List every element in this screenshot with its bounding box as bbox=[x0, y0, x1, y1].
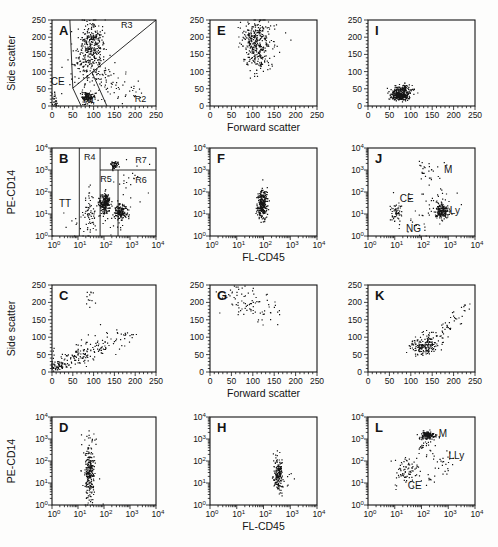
x-axis-label: Forward scatter bbox=[227, 387, 300, 399]
scatter-point-marks bbox=[272, 450, 295, 496]
tick-label: 103 bbox=[126, 239, 139, 251]
tick-label: 102 bbox=[193, 455, 206, 467]
plot-frame bbox=[368, 148, 475, 236]
panel-H: 100101102103104100101102103104FL-CD45H bbox=[193, 411, 326, 533]
tick-label: 102 bbox=[351, 455, 364, 467]
tick-label: 100 bbox=[35, 230, 48, 242]
y-axis-ticks bbox=[48, 20, 52, 106]
tick-label: 150 bbox=[32, 49, 46, 59]
tick-label: 101 bbox=[35, 477, 48, 489]
tick-label: 102 bbox=[100, 239, 113, 251]
tick-label: 250 bbox=[190, 15, 204, 25]
panel-J: 100101102103104100101102103104MCELyNGJ bbox=[351, 142, 484, 251]
tick-label: 103 bbox=[193, 433, 206, 445]
panel-C: 050100150200250050100150200250Side scatt… bbox=[5, 280, 163, 386]
tick-label: 102 bbox=[259, 239, 272, 251]
tick-label: 50 bbox=[37, 350, 47, 360]
y-axis-ticks bbox=[206, 417, 210, 505]
tick-label: 104 bbox=[351, 142, 364, 154]
axis-tick-labels: 100101102103104100101102103104 bbox=[351, 142, 484, 251]
tick-label: 102 bbox=[35, 455, 48, 467]
y-axis-ticks bbox=[206, 148, 210, 236]
tick-label: 200 bbox=[128, 110, 142, 120]
tick-label: 100 bbox=[348, 67, 362, 77]
tick-label: 0 bbox=[366, 110, 371, 120]
tick-label: 103 bbox=[35, 164, 48, 176]
tick-label: 250 bbox=[149, 376, 163, 386]
flow-cytometry-figure: 050100150200250050100150200250Side scatt… bbox=[0, 0, 498, 547]
figure-page: 050100150200250050100150200250Side scatt… bbox=[0, 0, 498, 547]
y-axis-ticks bbox=[48, 417, 52, 505]
tick-label: 100 bbox=[404, 376, 418, 386]
tick-label: 101 bbox=[232, 508, 245, 520]
tick-label: 0 bbox=[50, 110, 55, 120]
y-axis-ticks bbox=[364, 417, 368, 505]
tick-label: 0 bbox=[199, 101, 204, 111]
tick-label: 250 bbox=[310, 376, 324, 386]
tick-label: 100 bbox=[206, 508, 219, 520]
axis-tick-labels: 100101102103104100101102103104 bbox=[35, 411, 165, 520]
tick-label: 200 bbox=[32, 297, 46, 307]
tick-label: 101 bbox=[351, 477, 364, 489]
y-axis-label: Side scatter bbox=[5, 35, 17, 91]
panel-I: 050100150200250050100150200250I bbox=[348, 15, 483, 120]
panel-letter-H: H bbox=[217, 420, 226, 435]
tick-label: 0 bbox=[41, 367, 46, 377]
tick-label: 50 bbox=[353, 84, 363, 94]
panel-E: 050100150200250050100150200250Forward sc… bbox=[190, 15, 325, 133]
tick-label: 101 bbox=[232, 239, 245, 251]
tick-label: 104 bbox=[313, 508, 326, 520]
tick-label: 101 bbox=[74, 508, 87, 520]
x-axis-label: FL-CD45 bbox=[242, 251, 285, 263]
tick-label: 250 bbox=[32, 15, 46, 25]
tick-label: 102 bbox=[417, 508, 430, 520]
panel-D: 100101102103104100101102103104PE-CD14D bbox=[5, 411, 165, 520]
panel-letter-G: G bbox=[217, 288, 227, 303]
tick-label: 101 bbox=[351, 208, 364, 220]
y-axis-label: PE-CD14 bbox=[5, 170, 17, 215]
tick-label: 0 bbox=[208, 376, 213, 386]
tick-label: 100 bbox=[87, 376, 101, 386]
scatter-points bbox=[387, 83, 419, 103]
tick-label: 103 bbox=[286, 239, 299, 251]
gate-label-CE: CE bbox=[400, 193, 414, 204]
tick-label: 103 bbox=[286, 508, 299, 520]
gate-label-Ly: Ly bbox=[450, 205, 460, 216]
x-axis-label: Forward scatter bbox=[227, 121, 300, 133]
tick-label: 50 bbox=[195, 350, 205, 360]
tick-label: 200 bbox=[447, 376, 461, 386]
panel-letter-E: E bbox=[217, 23, 226, 38]
tick-label: 50 bbox=[37, 84, 47, 94]
tick-label: 100 bbox=[404, 110, 418, 120]
y-axis-label: Side scatter bbox=[5, 300, 17, 356]
gate-label-R1: R1 bbox=[83, 95, 95, 105]
gate-label-R2: R2 bbox=[135, 94, 147, 104]
y-axis-ticks bbox=[48, 285, 52, 372]
tick-label: 104 bbox=[351, 411, 364, 423]
tick-label: 150 bbox=[190, 49, 204, 59]
panel-letter-J: J bbox=[375, 151, 382, 166]
tick-label: 0 bbox=[357, 367, 362, 377]
tick-label: 200 bbox=[348, 32, 362, 42]
tick-label: 101 bbox=[193, 208, 206, 220]
gate-label-LLy: LLy bbox=[448, 450, 464, 461]
y-axis-ticks bbox=[206, 285, 210, 372]
tick-label: 104 bbox=[313, 239, 326, 251]
tick-label: 100 bbox=[351, 230, 364, 242]
y-axis-ticks bbox=[48, 148, 52, 236]
tick-label: 0 bbox=[208, 110, 213, 120]
tick-label: 100 bbox=[190, 332, 204, 342]
scatter-point-marks bbox=[406, 303, 471, 356]
y-axis-ticks bbox=[206, 20, 210, 106]
panel-letter-B: B bbox=[59, 151, 68, 166]
tick-label: 200 bbox=[348, 297, 362, 307]
tick-label: 150 bbox=[267, 376, 281, 386]
tick-label: 101 bbox=[35, 208, 48, 220]
tick-label: 50 bbox=[68, 376, 78, 386]
tick-label: 100 bbox=[206, 239, 219, 251]
tick-label: 104 bbox=[471, 239, 484, 251]
gate-label-TT: TT bbox=[59, 198, 71, 209]
tick-label: 150 bbox=[425, 110, 439, 120]
panel-letter-I: I bbox=[375, 23, 379, 38]
tick-label: 103 bbox=[351, 433, 364, 445]
